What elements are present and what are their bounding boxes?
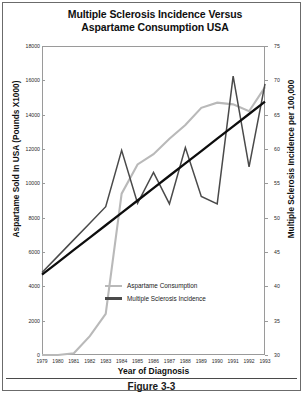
legend-color-swatch: [105, 297, 122, 300]
legend-item: Aspartame Consumption: [105, 279, 255, 292]
chart-legend: Aspartame ConsumptionMultiple Sclerosis …: [105, 279, 255, 305]
series-line: [42, 102, 265, 275]
legend-item-label: Aspartame Consumption: [127, 282, 197, 289]
legend-color-swatch: [105, 285, 122, 287]
legend-item: Multiple Sclerosis Incidence: [105, 292, 255, 305]
caption-divider: [6, 378, 297, 379]
legend-item-label: Multiple Sclerosis Incidence: [127, 295, 206, 302]
right-axis-title: Multiple Sclerosis Incidence per 100,000: [286, 54, 296, 264]
x-axis-title: Year of Diagnosis: [42, 366, 265, 376]
series-layer: [0, 0, 304, 394]
figure-container: Multiple Sclerosis Incidence Versus Aspa…: [0, 0, 304, 394]
figure-caption: Figure 3-3: [6, 381, 297, 392]
series-line: [42, 76, 265, 272]
left-axis-title: Aspartame Sold In USA (Pounds X1000): [11, 59, 21, 259]
